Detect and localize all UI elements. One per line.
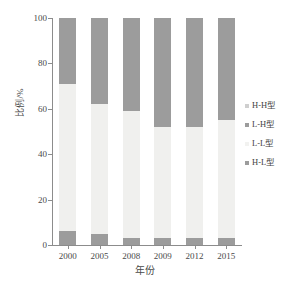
- x-tick-label: 2009: [146, 251, 180, 261]
- x-tick-mark: [131, 245, 132, 249]
- bar-group[interactable]: [218, 18, 235, 245]
- x-tick-label: 2005: [83, 251, 117, 261]
- x-axis-line: [52, 245, 242, 246]
- x-tick-mark: [68, 245, 69, 249]
- legend-swatch-icon: [245, 142, 249, 146]
- bar-group[interactable]: [59, 18, 76, 245]
- chart-container: 比例/% 020406080100 2000200520082009201220…: [0, 0, 290, 290]
- bar-group[interactable]: [186, 18, 203, 245]
- x-tick-label: 2008: [114, 251, 148, 261]
- bar-segment[interactable]: [218, 120, 235, 238]
- y-axis-title: 比例/%: [13, 68, 26, 138]
- legend-label: L-L型: [252, 139, 274, 148]
- legend-label: H-H型: [252, 101, 276, 110]
- legend-item[interactable]: H-L型: [245, 153, 290, 172]
- bar-segment[interactable]: [123, 18, 140, 111]
- x-tick-label: 2000: [51, 251, 85, 261]
- bar-segment[interactable]: [59, 18, 76, 84]
- x-tick-label: 2012: [178, 251, 212, 261]
- bar-group[interactable]: [154, 18, 171, 245]
- legend-item[interactable]: L-H型: [245, 115, 290, 134]
- legend-swatch-icon: [245, 123, 249, 127]
- bar-segment[interactable]: [154, 238, 171, 245]
- bar-segment[interactable]: [186, 127, 203, 238]
- bar-segment[interactable]: [91, 104, 108, 233]
- bar-segment[interactable]: [154, 127, 171, 238]
- bar-segment[interactable]: [91, 234, 108, 245]
- bar-segment[interactable]: [218, 18, 235, 120]
- x-tick-mark: [226, 245, 227, 249]
- bar-group[interactable]: [91, 18, 108, 245]
- legend-item[interactable]: L-L型: [245, 134, 290, 153]
- legend-swatch-icon: [245, 161, 249, 165]
- bar-segment[interactable]: [154, 18, 171, 127]
- x-tick-mark: [195, 245, 196, 249]
- y-tick-mark: [48, 245, 52, 246]
- bar-segment[interactable]: [123, 111, 140, 238]
- bar-segment[interactable]: [186, 238, 203, 245]
- legend-swatch-icon: [245, 104, 249, 108]
- plot-area: 020406080100 200020052008200920122015: [52, 18, 242, 245]
- legend-item[interactable]: H-H型: [245, 96, 290, 115]
- x-axis-title: 年份: [0, 262, 290, 277]
- bar-segment[interactable]: [59, 231, 76, 245]
- bar-segment[interactable]: [91, 18, 108, 104]
- bar-segment[interactable]: [123, 238, 140, 245]
- x-tick-mark: [163, 245, 164, 249]
- x-tick-mark: [100, 245, 101, 249]
- chart-legend: H-H型L-H型L-L型H-L型: [245, 96, 290, 172]
- bar-segment[interactable]: [59, 84, 76, 232]
- x-tick-label: 2015: [209, 251, 243, 261]
- legend-label: L-H型: [252, 120, 275, 129]
- bar-group[interactable]: [123, 18, 140, 245]
- bar-segment[interactable]: [218, 238, 235, 245]
- legend-label: H-L型: [252, 158, 275, 167]
- bars-layer: [52, 18, 242, 245]
- bar-segment[interactable]: [186, 18, 203, 127]
